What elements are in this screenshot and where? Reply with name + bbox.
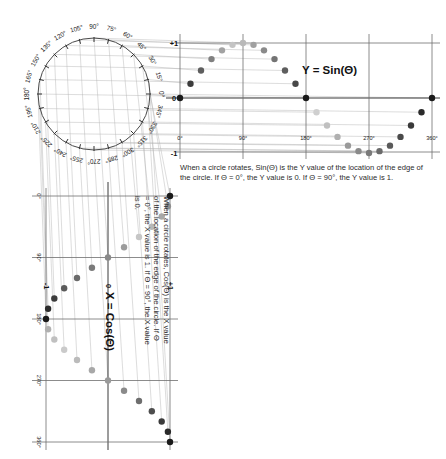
sin-data-point	[366, 150, 372, 156]
cos-data-point	[74, 275, 80, 281]
cos-data-point	[105, 254, 111, 260]
circle-degree-label: 195°	[23, 104, 33, 119]
circle-degree-label: 150°	[29, 52, 42, 67]
circle-degree-label: 0°	[158, 91, 165, 98]
projection-line-vertical	[108, 148, 124, 391]
sin-data-point	[292, 81, 298, 87]
sin-data-point	[282, 67, 288, 73]
cos-data-point	[149, 408, 155, 414]
sin-data-point	[198, 67, 204, 73]
sin-equation-label: Y = Sin(Θ)	[302, 64, 357, 76]
sin-caption: When a circle rotates, Sin(Θ) is the Y v…	[180, 163, 428, 182]
sin-data-point	[219, 47, 225, 53]
sin-data-point	[418, 109, 424, 115]
projection-line-horizontal	[150, 94, 432, 98]
cos-data-point	[45, 306, 51, 312]
projection-line-horizontal	[54, 54, 274, 59]
cos-data-point	[74, 357, 80, 363]
cos-data-point	[105, 377, 111, 383]
sin-data-point	[187, 81, 193, 87]
sin-data-point	[376, 148, 382, 154]
cos-angle-tick-label: 90°	[36, 253, 42, 261]
sin-x-tick-label: 360°	[426, 135, 438, 141]
circle-tick	[131, 131, 135, 135]
sin-data-point	[397, 134, 403, 140]
sin-data-point	[177, 95, 183, 101]
cos-data-point	[167, 439, 173, 445]
cos-value-tick-label: 0	[104, 284, 113, 288]
circle-degree-label: 165°	[23, 69, 33, 84]
sin-data-point	[429, 95, 435, 101]
cos-data-point	[89, 367, 95, 373]
cos-caption: When a circle rotates, Cos(Θ) is the X v…	[133, 196, 171, 346]
sin-data-point	[387, 142, 393, 148]
sin-data-point	[334, 134, 340, 140]
sin-x-tick-label: 270°	[363, 135, 375, 141]
cos-angle-tick-label: 0°	[36, 193, 42, 198]
sin-data-point	[324, 122, 330, 128]
circle-degree-label: 210°	[29, 120, 42, 135]
sin-data-point	[250, 42, 256, 48]
cos-data-point	[158, 418, 164, 424]
sin-data-point	[240, 40, 246, 46]
cos-equation-label: X = Cos(Θ)	[104, 292, 116, 351]
cos-data-point	[51, 295, 57, 301]
sin-x-tick-label: 0°	[177, 135, 182, 141]
diagram-svg: 0°15°30°45°60°75°90°105°120°135°150°165°…	[0, 0, 446, 459]
circle-degree-label: 75°	[106, 24, 118, 33]
sin-data-point	[271, 56, 277, 62]
circle-degree-label: 315°	[134, 135, 149, 150]
circle-degree-label: 105°	[69, 23, 84, 33]
cos-angle-tick-label: 360°	[36, 436, 42, 448]
sin-data-point	[345, 142, 351, 148]
sin-data-point	[355, 148, 361, 154]
cos-data-point	[89, 265, 95, 271]
circle-degree-label: 255°	[69, 154, 84, 164]
projection-line-vertical	[108, 40, 124, 247]
sin-y-tick-label: -1	[171, 149, 178, 158]
cos-data-point	[121, 388, 127, 394]
cos-value-tick-label: -1	[42, 283, 51, 290]
sin-data-point	[261, 47, 267, 53]
cos-data-point	[121, 244, 127, 250]
cos-data-point	[61, 285, 67, 291]
sin-x-tick-label: 180°	[300, 135, 312, 141]
cos-data-point	[61, 347, 67, 353]
projection-line-horizontal	[40, 80, 296, 84]
circle-degree-label: 285°	[104, 154, 119, 164]
circle-degree-label: 240°	[52, 146, 67, 159]
cos-data-point	[51, 336, 57, 342]
sin-data-point	[303, 95, 309, 101]
sin-y-tick-label: 0	[172, 94, 176, 103]
circle-degree-label: 330°	[146, 120, 159, 135]
cos-angle-tick-label: 270°	[36, 375, 42, 387]
diagram-canvas: 0°15°30°45°60°75°90°105°120°135°150°165°…	[0, 0, 446, 459]
sin-data-point	[208, 56, 214, 62]
circle-degree-label: 120°	[53, 29, 68, 42]
circle-degree-label: 135°	[39, 39, 54, 54]
cos-data-point	[43, 316, 49, 322]
sin-data-point	[408, 122, 414, 128]
cos-data-point	[45, 326, 51, 332]
cos-data-point	[165, 429, 171, 435]
circle-degree-label: 345°	[154, 104, 164, 119]
sin-data-point	[313, 109, 319, 115]
sin-data-point	[229, 42, 235, 48]
sin-x-tick-label: 90°	[239, 135, 247, 141]
cos-data-point	[136, 398, 142, 404]
circle-degree-label: 270°	[87, 158, 101, 165]
sin-y-tick-label: +1	[170, 39, 178, 48]
projection-line-vertical	[94, 38, 108, 258]
projection-line-vertical	[46, 66, 55, 299]
circle-degree-label: 90°	[89, 23, 99, 30]
projection-line-vertical	[80, 148, 92, 370]
projection-line-vertical	[80, 40, 92, 268]
projection-line-vertical	[66, 142, 77, 360]
circle-degree-label: 180°	[23, 87, 30, 101]
cos-angle-tick-label: 180°	[36, 313, 42, 325]
